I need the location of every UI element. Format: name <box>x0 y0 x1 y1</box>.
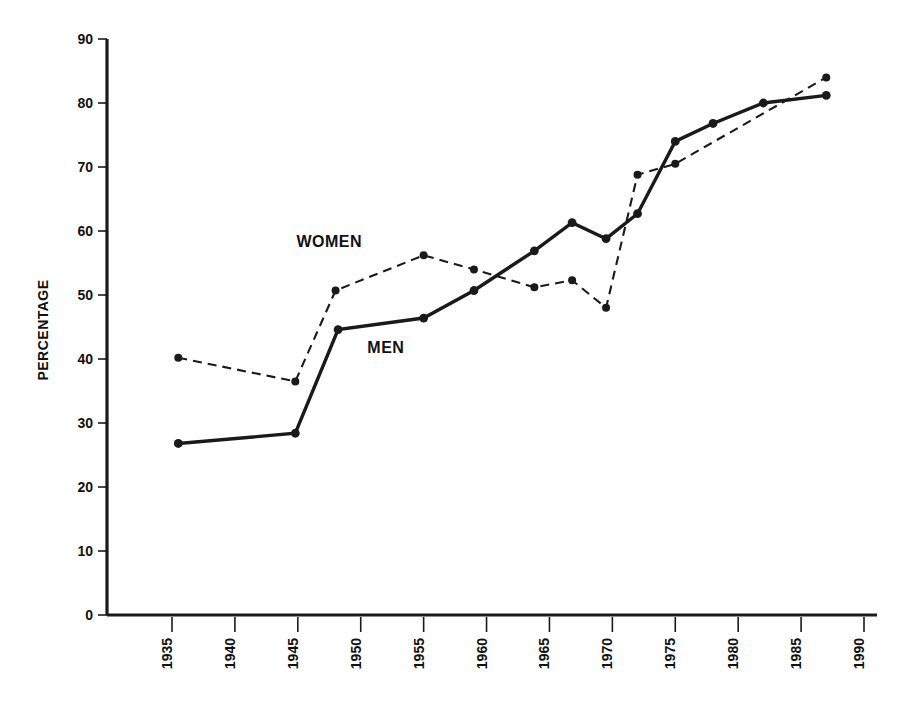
x-tick-label: 1985 <box>788 638 804 669</box>
data-point-women <box>420 251 428 259</box>
x-axis-ticks: 1935194019451950195519601965197019751980… <box>159 617 867 669</box>
x-tick-label: 1990 <box>851 638 867 669</box>
data-point-women <box>470 265 478 273</box>
series-label-women: WOMEN <box>296 233 362 250</box>
data-point-women <box>530 283 538 291</box>
data-point-men <box>334 325 343 334</box>
y-tick-label: 80 <box>77 95 93 111</box>
data-point-men <box>602 234 611 243</box>
y-tick-label: 60 <box>77 223 93 239</box>
data-point-men <box>633 209 642 218</box>
series-line-women <box>178 77 826 381</box>
data-point-women <box>174 354 182 362</box>
data-point-men <box>759 99 768 108</box>
x-tick-label: 1955 <box>411 638 427 669</box>
y-tick-label: 30 <box>77 415 93 431</box>
y-tick-label: 50 <box>77 287 93 303</box>
data-point-men <box>709 119 718 128</box>
y-tick-label: 70 <box>77 159 93 175</box>
data-point-women <box>332 287 340 295</box>
data-point-men <box>470 286 479 295</box>
data-point-women <box>602 304 610 312</box>
series-annotations: WOMENMEN <box>296 233 404 356</box>
data-point-men <box>822 91 831 100</box>
data-point-men <box>419 314 428 323</box>
data-point-men <box>568 218 577 227</box>
y-axis-ticks: 0102030405060708090 <box>77 31 107 623</box>
x-tick-label: 1945 <box>285 638 301 669</box>
y-tick-label: 0 <box>85 607 93 623</box>
data-point-men <box>291 429 300 438</box>
data-point-women <box>634 171 642 179</box>
y-axis-title: PERCENTAGE <box>35 279 51 380</box>
y-tick-label: 40 <box>77 351 93 367</box>
series-line-men <box>178 95 826 443</box>
y-tick-label: 10 <box>77 543 93 559</box>
data-point-men <box>174 439 183 448</box>
x-tick-label: 1935 <box>159 638 175 669</box>
chart-container: 0102030405060708090 19351940194519501955… <box>0 0 912 702</box>
data-point-men <box>671 137 680 146</box>
x-tick-label: 1960 <box>474 638 490 669</box>
data-point-women <box>822 73 830 81</box>
x-tick-label: 1950 <box>348 638 364 669</box>
line-chart: 0102030405060708090 19351940194519501955… <box>0 0 912 702</box>
data-point-women <box>568 276 576 284</box>
x-tick-label: 1940 <box>222 638 238 669</box>
x-tick-label: 1975 <box>662 638 678 669</box>
data-series <box>174 73 831 447</box>
data-point-women <box>291 377 299 385</box>
data-point-men <box>530 246 539 255</box>
x-tick-label: 1970 <box>599 638 615 669</box>
series-label-men: MEN <box>367 339 404 356</box>
axes <box>107 39 877 615</box>
x-tick-label: 1980 <box>725 638 741 669</box>
y-tick-label: 90 <box>77 31 93 47</box>
y-tick-label: 20 <box>77 479 93 495</box>
data-point-women <box>671 160 679 168</box>
x-tick-label: 1965 <box>536 638 552 669</box>
